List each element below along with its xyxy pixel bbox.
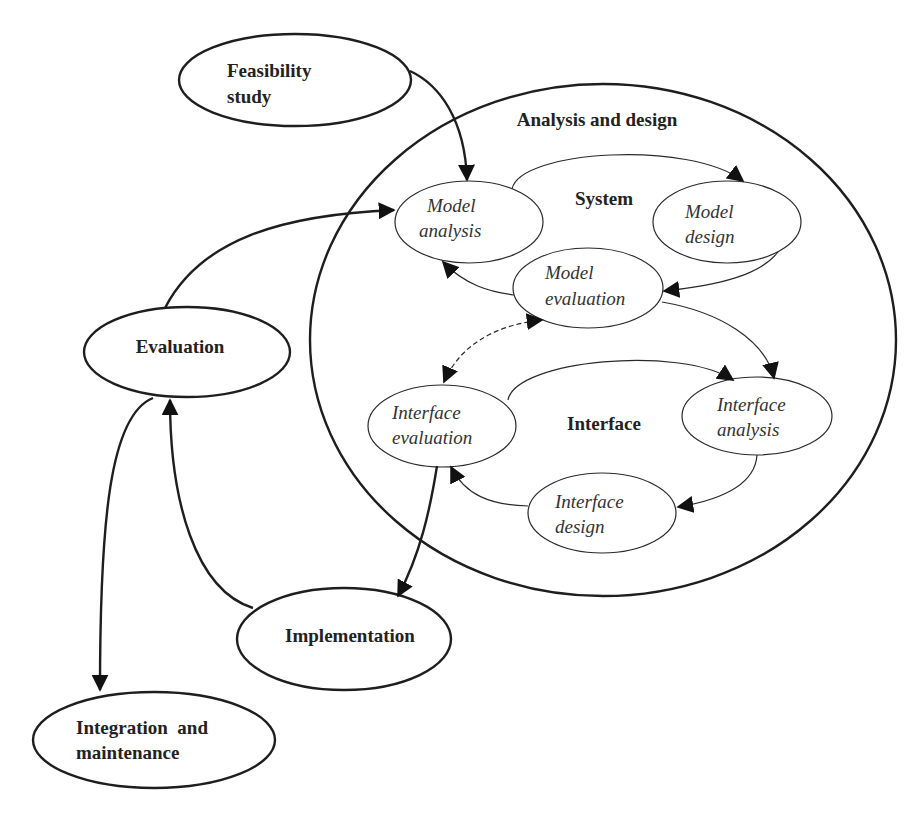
svg-text:Interface: Interface [554, 491, 624, 512]
edge-model-evaluation-to-model-analysis [443, 262, 514, 295]
svg-text:maintenance: maintenance [76, 742, 179, 763]
svg-text:evaluation: evaluation [545, 288, 625, 309]
svg-text:analysis: analysis [717, 419, 779, 440]
edge-interface-design-to-interface-evaluation [451, 467, 528, 506]
node-model-evaluation[interactable]: Model evaluation [513, 248, 663, 328]
edge-interface-evaluation-to-interface-analysis [508, 360, 733, 400]
system-label: System [575, 188, 633, 209]
svg-text:Evaluation: Evaluation [136, 336, 225, 357]
edge-evaluation-to-model-analysis [165, 210, 394, 308]
svg-text:Implementation: Implementation [285, 625, 415, 646]
svg-text:analysis: analysis [419, 220, 481, 241]
svg-text:Model: Model [684, 201, 734, 222]
svg-text:Interface: Interface [391, 402, 461, 423]
node-feasibility-study[interactable]: Feasibility study [179, 34, 411, 126]
edge-model-analysis-to-model-design [512, 155, 743, 189]
svg-text:Integration and: Integration and [76, 717, 208, 738]
edge-model-evaluation-interface-evaluation-dashed [444, 320, 542, 382]
node-interface-analysis[interactable]: Interface analysis [682, 377, 832, 455]
node-model-design[interactable]: Model design [653, 181, 801, 263]
node-interface-evaluation[interactable]: Interface evaluation [368, 385, 516, 467]
svg-text:Model: Model [544, 262, 594, 283]
lifecycle-diagram: Analysis and design System Interface Fea… [0, 0, 920, 819]
edge-interface-analysis-to-interface-design [678, 455, 757, 507]
svg-text:Model: Model [426, 195, 476, 216]
edge-evaluation-to-integration [100, 398, 153, 690]
container-title: Analysis and design [517, 109, 678, 130]
node-implementation[interactable]: Implementation [237, 588, 451, 690]
svg-text:Interface: Interface [716, 394, 786, 415]
node-interface-design[interactable]: Interface design [528, 473, 676, 553]
svg-text:design: design [555, 516, 605, 537]
svg-text:evaluation: evaluation [392, 427, 472, 448]
edge-implementation-to-evaluation [170, 400, 253, 608]
edge-model-evaluation-to-interface-analysis [662, 302, 774, 378]
node-evaluation[interactable]: Evaluation [84, 307, 290, 397]
interface-label: Interface [567, 413, 641, 434]
edge-feasibility-to-model-analysis [410, 71, 467, 180]
edge-model-design-to-model-evaluation [664, 252, 778, 291]
svg-text:design: design [685, 226, 735, 247]
svg-text:study: study [227, 86, 272, 107]
edge-interface-evaluation-to-implementation [398, 466, 437, 596]
svg-text:Feasibility: Feasibility [227, 60, 312, 81]
node-integration-maintenance[interactable]: Integration and maintenance [33, 692, 275, 788]
node-model-analysis[interactable]: Model analysis [395, 181, 543, 263]
